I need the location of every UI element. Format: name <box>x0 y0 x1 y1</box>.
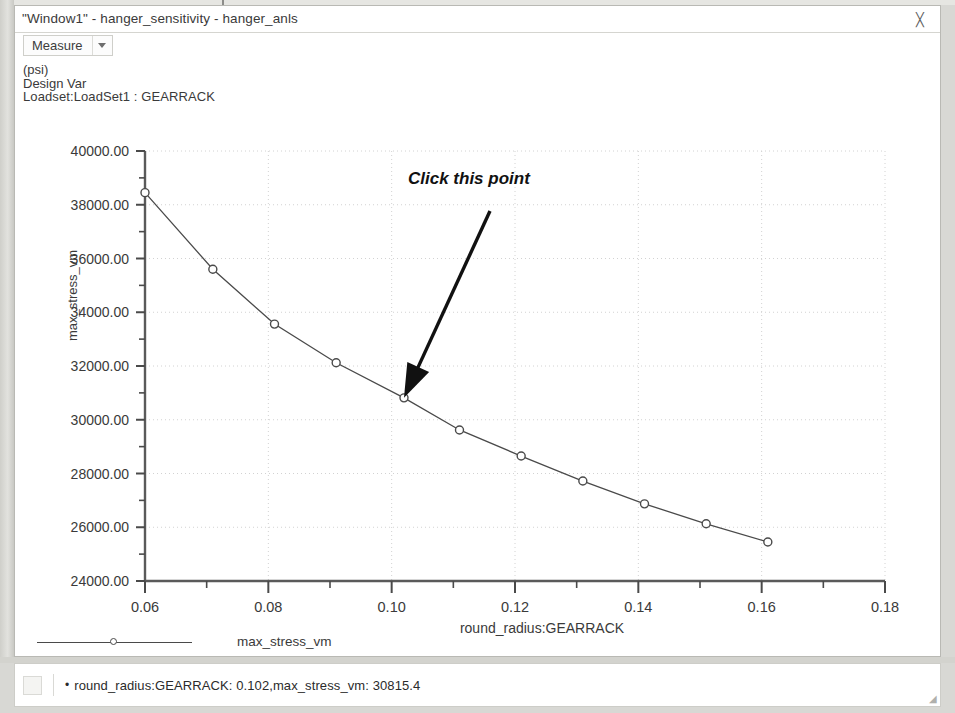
svg-text:38000.00: 38000.00 <box>71 197 130 213</box>
chart-kind: Design Var <box>23 77 215 91</box>
chart-header: (psi) Design Var Loadset:LoadSet1 : GEAR… <box>23 63 215 104</box>
legend-series-label: max_stress_vm <box>237 634 332 649</box>
chart-legend: max_stress_vm <box>37 634 332 649</box>
svg-text:24000.00: 24000.00 <box>71 573 130 589</box>
window-title: "Window1" - hanger_sensitivity - hanger_… <box>22 11 298 26</box>
window-frame-left <box>0 0 14 660</box>
svg-text:40000.00: 40000.00 <box>71 143 130 159</box>
status-message: round_radius:GEARRACK: 0.102,max_stress_… <box>74 678 420 693</box>
svg-text:0.10: 0.10 <box>378 599 406 615</box>
resize-grip-icon[interactable]: ◢ <box>929 693 937 704</box>
status-bar: • round_radius:GEARRACK: 0.102,max_stres… <box>14 663 941 707</box>
measure-dropdown-button[interactable]: Measure <box>23 35 113 56</box>
graph-window: "Window1" - hanger_sensitivity - hanger_… <box>14 5 941 657</box>
svg-text:28000.00: 28000.00 <box>71 466 130 482</box>
svg-text:0.06: 0.06 <box>131 599 159 615</box>
svg-text:0.16: 0.16 <box>748 599 776 615</box>
bullet-icon: • <box>65 679 69 691</box>
chevron-down-icon[interactable] <box>93 36 112 55</box>
svg-text:0.18: 0.18 <box>871 599 899 615</box>
svg-text:round_radius:GEARRACK: round_radius:GEARRACK <box>460 620 625 636</box>
legend-swatch <box>37 636 192 648</box>
chart-loadset: Loadset:LoadSet1 : GEARRACK <box>23 90 215 104</box>
y-axis-title: max_stress_vm <box>65 250 80 341</box>
svg-text:0.14: 0.14 <box>624 599 652 615</box>
status-checkbox[interactable] <box>23 676 42 695</box>
application-window: "Window1" - hanger_sensitivity - hanger_… <box>0 0 955 713</box>
svg-text:26000.00: 26000.00 <box>71 519 130 535</box>
title-bar: "Window1" - hanger_sensitivity - hanger_… <box>15 6 940 33</box>
status-divider <box>53 674 54 696</box>
svg-text:0.12: 0.12 <box>501 599 529 615</box>
measure-label: Measure <box>24 38 92 53</box>
svg-text:30000.00: 30000.00 <box>71 412 130 428</box>
svg-text:0.08: 0.08 <box>254 599 282 615</box>
annotation-label: Click this point <box>408 169 530 189</box>
toolbar: Measure <box>15 33 940 58</box>
chart-units: (psi) <box>23 63 215 77</box>
close-icon[interactable]: ╳ <box>908 10 932 28</box>
svg-text:32000.00: 32000.00 <box>71 358 130 374</box>
